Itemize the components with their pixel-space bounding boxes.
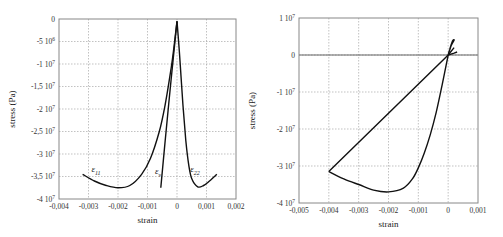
x-tick-label: -0,005 xyxy=(289,206,309,215)
y-tick-label: -3 107 xyxy=(37,149,56,159)
x-tick-label: -0,001 xyxy=(409,206,429,215)
x-tick-label: 0,001 xyxy=(198,202,215,211)
y-tick-label: -3 107 xyxy=(277,161,296,171)
y-tick-label: -2 107 xyxy=(277,124,296,134)
y-tick-label: 1 107 xyxy=(279,13,295,23)
x-axis-label: strain xyxy=(138,215,158,225)
x-tick-label: 0,002 xyxy=(228,202,245,211)
figure-canvas: -0,004-0,003-0,002-0,00100,0010,0020-5 1… xyxy=(0,0,503,237)
series-annotation: ε11 xyxy=(91,164,100,176)
x-tick-label: -0,003 xyxy=(79,202,99,211)
y-axis-label: stress (Pa) xyxy=(7,90,17,127)
series-annotation: εv xyxy=(155,166,162,178)
y-axis-label: stress (Pa) xyxy=(247,92,257,129)
x-tick-label: 0 xyxy=(175,202,179,211)
y-tick-label: 0 xyxy=(51,15,55,24)
y-tick-label: 0 xyxy=(291,51,295,60)
y-tick-label: -5 106 xyxy=(37,36,56,46)
series-line xyxy=(329,48,454,172)
y-tick-label: -2 107 xyxy=(37,104,56,114)
series-line xyxy=(161,21,177,188)
x-tick-label: -0,004 xyxy=(49,202,69,211)
series-line xyxy=(177,21,217,187)
y-tick-label: -2,5 107 xyxy=(31,126,55,136)
y-tick-label: -1 107 xyxy=(277,87,296,97)
x-tick-label: 0 xyxy=(446,206,450,215)
chart-left: -0,004-0,003-0,002-0,00100,0010,0020-5 1… xyxy=(7,15,245,226)
x-tick-label: -0,004 xyxy=(319,206,339,215)
chart-right: -0,005-0,004-0,003-0,002-0,00100,0011 10… xyxy=(247,13,487,230)
x-tick-label: -0,003 xyxy=(349,206,369,215)
x-tick-label: 0,001 xyxy=(470,206,487,215)
x-tick-label: -0,001 xyxy=(138,202,158,211)
y-tick-label: -3,5 107 xyxy=(31,171,55,181)
x-axis-label: strain xyxy=(379,219,399,229)
series-annotation: ε22 xyxy=(190,164,200,176)
y-tick-label: -1 107 xyxy=(37,59,56,69)
x-tick-label: -0,002 xyxy=(379,206,399,215)
y-tick-label: -1,5 107 xyxy=(31,81,55,91)
x-tick-label: -0,002 xyxy=(108,202,128,211)
